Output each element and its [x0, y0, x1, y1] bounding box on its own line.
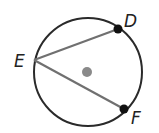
point-d: [114, 25, 123, 34]
center-dot: [82, 67, 92, 77]
label-e: E: [14, 51, 25, 71]
point-f: [120, 105, 129, 114]
chord-ef: [34, 60, 124, 109]
label-d: D: [124, 11, 137, 31]
label-f: F: [131, 108, 141, 128]
chord-ed: [34, 29, 118, 60]
inscribed-angle-diagram: D E F: [0, 0, 159, 133]
